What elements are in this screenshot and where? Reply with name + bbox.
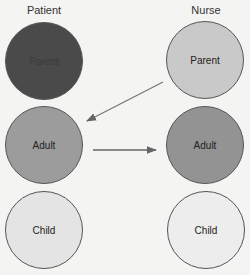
arrow-nurse-parent-to-patient-adult	[87, 82, 163, 121]
arrows-layer	[0, 0, 250, 275]
